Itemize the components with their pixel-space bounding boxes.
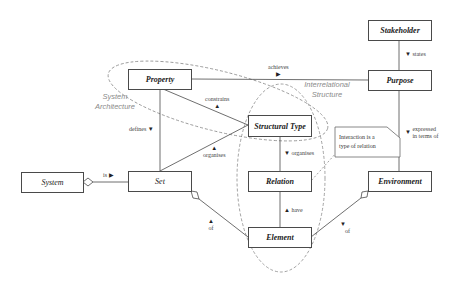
class-environment-label: Environment: [378, 177, 422, 186]
label-organises-relation: ▼ organises: [284, 150, 314, 157]
diagram-canvas: [0, 0, 457, 286]
label-have: ▲ have: [284, 207, 303, 214]
class-set-label: Set: [155, 177, 165, 186]
class-stakeholder-label: Stakeholder: [380, 26, 420, 35]
note-interaction: Interaction is atype of relation: [339, 133, 376, 151]
label-of-set: ▲of: [208, 218, 214, 232]
class-system-label: System: [41, 178, 63, 187]
arrow-up-icon: ▲: [211, 145, 217, 151]
class-system[interactable]: System: [21, 172, 84, 193]
system-aggregation-diamond: [83, 178, 93, 186]
arrow-down-icon: ▼: [284, 150, 290, 156]
class-relation-label: Relation: [266, 177, 294, 186]
label-achieves: achieves▶: [268, 64, 289, 78]
class-set[interactable]: Set: [128, 171, 192, 192]
arrow-right-icon: ▶: [109, 172, 114, 178]
arrow-right-icon: ▶: [276, 71, 281, 77]
environment-aggregation-diamond: [361, 191, 368, 198]
class-property[interactable]: Property: [128, 69, 192, 90]
region-label-interrelational-structure: InterrelationalStructure: [297, 80, 357, 100]
region-label-system-architecture: SystemArchitecture: [90, 92, 140, 112]
arrow-down-icon: ▼: [405, 129, 411, 135]
class-environment[interactable]: Environment: [368, 171, 432, 192]
class-structural-type-label: Structural Type: [254, 122, 305, 131]
label-organises-set: ▲organises: [203, 145, 226, 159]
set-element-line: [199, 199, 248, 237]
label-states: ▼ states: [405, 51, 426, 58]
label-constrains: constrains▲: [205, 96, 229, 110]
arrow-down-icon: ▼: [148, 126, 154, 132]
class-stakeholder[interactable]: Stakeholder: [368, 20, 432, 41]
arrow-up-icon: ▲: [214, 103, 220, 109]
label-defines: defines ▼: [129, 126, 154, 133]
class-purpose-label: Purpose: [386, 76, 413, 85]
class-purpose[interactable]: Purpose: [368, 70, 432, 91]
arrow-up-icon: ▲: [208, 218, 214, 224]
class-element-label: Element: [266, 233, 294, 242]
class-element[interactable]: Element: [248, 227, 312, 248]
arrow-up-icon: ▲: [284, 207, 290, 213]
label-of-environment: ▼of: [340, 221, 350, 235]
class-property-label: Property: [146, 75, 174, 84]
class-structural-type[interactable]: Structural Type: [248, 115, 312, 137]
label-expressed-in-terms-of: ▼ expressedin terms of: [405, 126, 438, 140]
label-is: is ▶: [103, 172, 114, 179]
set-aggregation-diamond: [191, 191, 199, 199]
class-relation[interactable]: Relation: [248, 171, 312, 192]
environment-element-line: [311, 198, 361, 237]
arrow-down-icon: ▼: [340, 221, 346, 227]
arrow-down-icon: ▼: [405, 51, 411, 57]
